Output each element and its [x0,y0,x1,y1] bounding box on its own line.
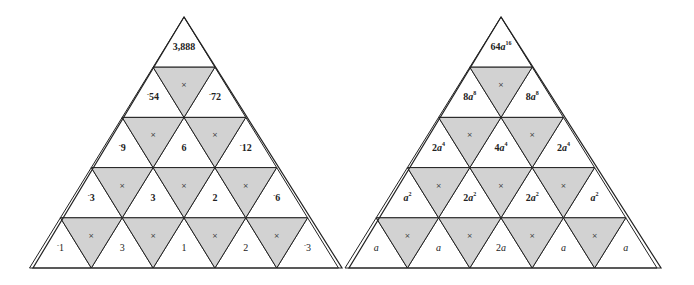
multiply-icon: × [436,182,442,190]
multiply-icon: × [181,81,187,89]
multiply-icon: × [404,232,410,240]
cell-value: 2 [243,242,248,253]
cell-value: 3 [120,242,125,253]
multiply-icon: × [212,131,218,139]
cell-value: -1 [57,242,64,253]
multiply-icon: × [212,232,218,240]
multiply-icon: × [498,182,504,190]
multiply-icon: × [274,232,280,240]
multiply-icon: × [467,131,473,139]
multiply-icon: × [498,81,504,89]
multiply-icon: × [150,131,156,139]
multiply-icon: × [592,232,598,240]
cell-value: a [374,242,379,253]
multiply-icon: × [529,232,535,240]
multiply-icon: × [529,131,535,139]
cell-value: a [623,242,628,253]
multiply-icon: × [181,182,187,190]
cell-value: -12 [240,142,252,153]
cell-value: -3 [304,242,311,253]
cell-value: 1 [182,242,187,253]
multiply-icon: × [560,182,566,190]
cell-value: 2a [496,242,506,253]
cell-value: 2 [212,192,217,203]
cell-value: -3 [88,192,95,203]
algebraic-pyramid: 64a168a88a8×2a44a42a4××a22a22a2a2×××aa2a… [345,17,661,268]
cell-value: a [436,242,441,253]
cell-value: a [561,242,566,253]
multiply-icon: × [88,232,94,240]
multiplication-pyramids-diagram: 3,888-54-72×-96-12××-332-6×××-1312-3××××… [0,0,694,285]
multiply-icon: × [467,232,473,240]
cell-value: -6 [273,192,280,203]
numeric-pyramid: 3,888-54-72×-96-12××-332-6×××-1312-3×××× [30,17,343,268]
cell-value: 6 [182,142,187,153]
cell-value: -54 [147,92,159,103]
multiply-icon: × [119,182,125,190]
multiply-icon: × [150,232,156,240]
cell-value: -9 [119,142,126,153]
multiply-icon: × [243,182,249,190]
cell-value: 3 [151,192,156,203]
cell-value: 3,888 [173,41,196,52]
cell-value: -72 [209,92,221,103]
